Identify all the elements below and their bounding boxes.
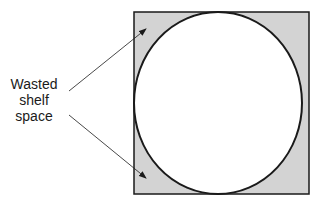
wasted-shelf-space-label: Wasted shelf space xyxy=(4,76,64,124)
label-line-3: space xyxy=(4,108,64,124)
circle-product xyxy=(134,12,302,194)
label-line-1: Wasted xyxy=(4,76,64,92)
label-line-2: shelf xyxy=(4,92,64,108)
